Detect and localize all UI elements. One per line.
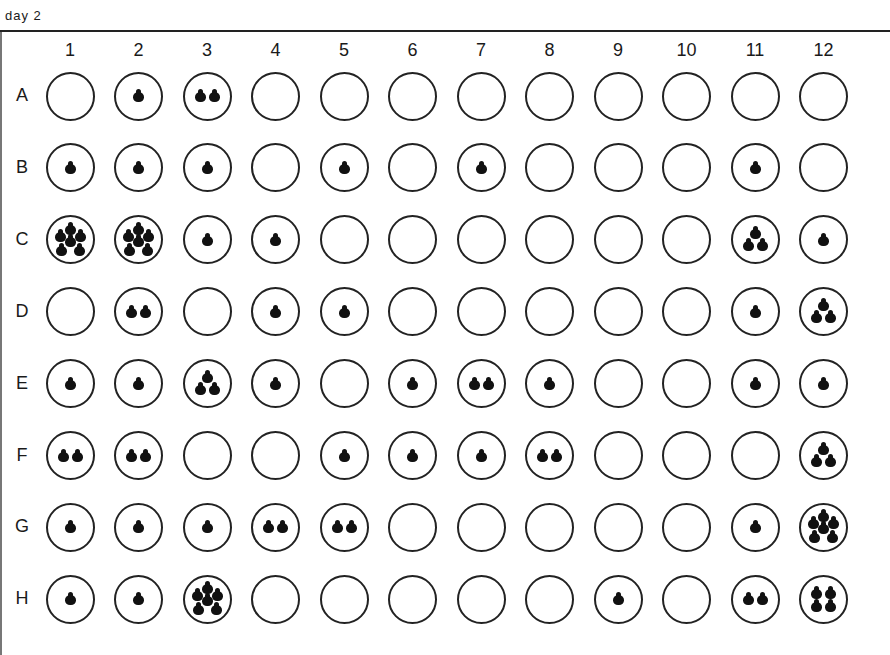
colony-icon <box>339 164 350 174</box>
colony-icon <box>743 241 754 251</box>
colony-icon <box>811 589 822 599</box>
well-A4 <box>251 72 300 121</box>
colony-icon <box>195 92 206 102</box>
well-B12 <box>799 143 848 192</box>
column-label-12: 12 <box>804 40 844 61</box>
well-H5 <box>320 575 369 624</box>
colony-icon <box>202 373 213 383</box>
well-D12 <box>799 287 848 336</box>
colony-icon <box>195 385 206 395</box>
well-D2 <box>114 287 163 336</box>
row-label-H: H <box>14 588 30 609</box>
colony-icon <box>407 452 418 462</box>
colony-icon <box>818 380 829 390</box>
well-F2 <box>114 431 163 480</box>
row-label-A: A <box>14 85 30 106</box>
well-A5 <box>320 72 369 121</box>
colony-icon <box>825 313 836 323</box>
well-G6 <box>388 503 437 552</box>
colony-icon <box>211 605 222 615</box>
well-H12 <box>799 575 848 624</box>
well-A7 <box>457 72 506 121</box>
well-G10 <box>662 503 711 552</box>
well-D1 <box>46 287 95 336</box>
colony-icon <box>339 308 350 318</box>
well-H7 <box>457 575 506 624</box>
column-label-9: 9 <box>598 40 638 61</box>
well-H10 <box>662 575 711 624</box>
colony-icon <box>469 380 480 390</box>
colony-icon <box>193 605 204 615</box>
well-B9 <box>594 143 643 192</box>
well-A1 <box>46 72 95 121</box>
colony-icon <box>65 237 76 247</box>
colony-icon <box>407 380 418 390</box>
colony-icon <box>74 246 85 256</box>
colony-icon <box>72 452 83 462</box>
well-F12 <box>799 431 848 480</box>
colony-icon <box>65 380 76 390</box>
colony-icon <box>142 246 153 256</box>
column-label-1: 1 <box>50 40 90 61</box>
row-label-F: F <box>14 445 30 466</box>
well-H4 <box>251 575 300 624</box>
column-label-11: 11 <box>735 40 775 61</box>
well-H8 <box>525 575 574 624</box>
well-C7 <box>457 215 506 264</box>
well-G8 <box>525 503 574 552</box>
colony-icon <box>476 452 487 462</box>
well-D10 <box>662 287 711 336</box>
colony-icon <box>140 452 151 462</box>
well-E9 <box>594 359 643 408</box>
well-F1 <box>46 431 95 480</box>
well-H6 <box>388 575 437 624</box>
colony-icon <box>750 229 761 239</box>
colony-icon <box>346 523 357 533</box>
well-C9 <box>594 215 643 264</box>
column-label-2: 2 <box>119 40 159 61</box>
well-A12 <box>799 72 848 121</box>
row-label-B: B <box>14 157 30 178</box>
well-C6 <box>388 215 437 264</box>
well-A6 <box>388 72 437 121</box>
colony-icon <box>65 164 76 174</box>
colony-icon <box>202 596 213 606</box>
column-label-10: 10 <box>667 40 707 61</box>
left-border <box>0 32 2 655</box>
colony-icon <box>476 164 487 174</box>
header-divider <box>0 30 890 32</box>
well-A3 <box>183 72 232 121</box>
well-H11 <box>731 575 780 624</box>
colony-icon <box>133 595 144 605</box>
well-G5 <box>320 503 369 552</box>
colony-icon <box>202 523 213 533</box>
colony-icon <box>75 232 86 242</box>
colony-icon <box>750 308 761 318</box>
well-A11 <box>731 72 780 121</box>
well-F10 <box>662 431 711 480</box>
colony-icon <box>56 246 67 256</box>
colony-icon <box>811 602 822 612</box>
well-D8 <box>525 287 574 336</box>
well-G7 <box>457 503 506 552</box>
column-label-5: 5 <box>324 40 364 61</box>
column-label-3: 3 <box>187 40 227 61</box>
well-B4 <box>251 143 300 192</box>
colony-icon <box>811 457 822 467</box>
well-F11 <box>731 431 780 480</box>
colony-icon <box>202 236 213 246</box>
colony-icon <box>818 301 829 311</box>
colony-icon <box>750 164 761 174</box>
row-label-C: C <box>14 229 30 250</box>
colony-icon <box>757 595 768 605</box>
well-G9 <box>594 503 643 552</box>
well-A8 <box>525 72 574 121</box>
colony-icon <box>209 92 220 102</box>
well-B6 <box>388 143 437 192</box>
well-D7 <box>457 287 506 336</box>
colony-icon <box>811 313 822 323</box>
well-E3 <box>183 359 232 408</box>
well-G4 <box>251 503 300 552</box>
well-C5 <box>320 215 369 264</box>
colony-icon <box>65 595 76 605</box>
